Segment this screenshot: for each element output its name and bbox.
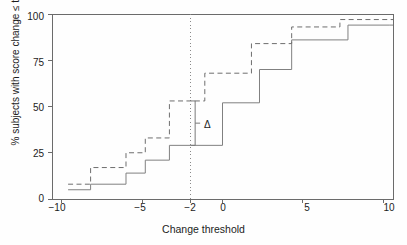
chart-canvas [0,0,407,245]
delta-bracket-group [191,101,200,145]
data-series-group [68,20,393,190]
chart-figure: % subjects with score change ≤ threshold… [0,0,407,245]
series-solid-curve [68,25,393,190]
series-dashed-curve [68,20,393,185]
y-axis-ticks [48,14,52,199]
x-axis-ticks [62,199,384,203]
delta-bracket-path [191,101,195,145]
